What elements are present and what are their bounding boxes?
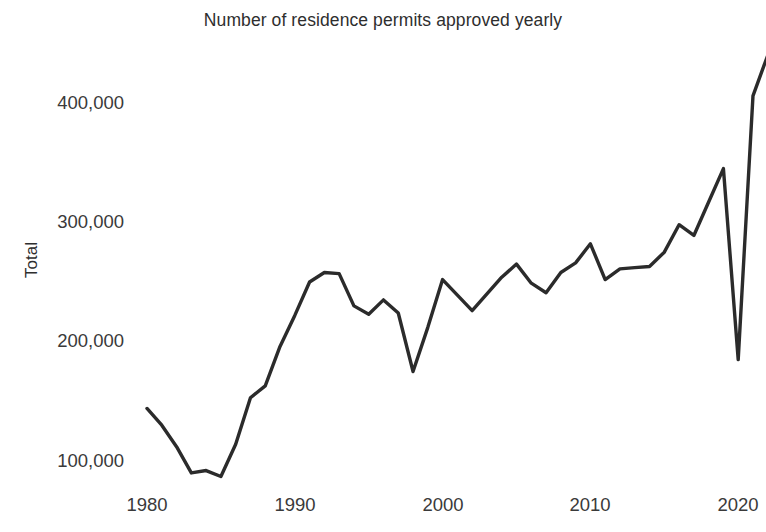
plot-area	[0, 0, 766, 532]
chart-figure: Number of residence permits approved yea…	[0, 0, 766, 532]
data-series-line	[147, 55, 766, 476]
